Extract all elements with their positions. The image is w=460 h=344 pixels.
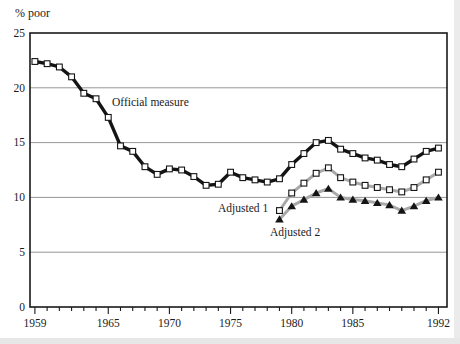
marker-square-official-measure [32,59,38,65]
marker-square-adjusted-1 [277,208,283,214]
x-tick-label: 1959 [23,317,46,329]
marker-square-official-measure [277,176,283,182]
marker-square-official-measure [362,155,368,161]
marker-square-official-measure [313,140,319,146]
marker-square-official-measure [191,174,197,180]
x-tick-label: 1992 [427,317,450,329]
x-tick-label: 1965 [97,317,120,329]
marker-square-official-measure [240,175,246,181]
marker-square-official-measure [252,177,258,183]
y-tick-label: 10 [14,191,26,203]
x-tick-label: 1980 [280,317,303,329]
marker-square-official-measure [228,169,234,175]
scan-edge-bottom [0,338,460,344]
marker-square-official-measure [399,164,405,170]
chart-plot-area: 05101520251959196519701975198019851992 [0,0,460,344]
marker-square-adjusted-1 [399,189,405,195]
marker-square-official-measure [411,156,417,162]
marker-square-official-measure [325,138,331,144]
marker-square-official-measure [203,182,209,188]
marker-square-official-measure [423,148,429,154]
scan-edge-right [454,0,460,344]
marker-square-official-measure [179,167,185,173]
y-tick-label: 25 [14,27,26,39]
marker-square-official-measure [289,162,295,168]
marker-square-adjusted-1 [362,182,368,188]
marker-square-official-measure [436,145,442,151]
marker-square-adjusted-1 [325,165,331,171]
x-tick-label: 1985 [341,317,364,329]
y-tick-label: 5 [19,246,25,258]
marker-square-adjusted-1 [350,179,356,185]
y-tick-label: 0 [19,301,25,313]
marker-square-official-measure [142,164,148,170]
marker-square-official-measure [374,157,380,163]
series-label-adjusted-1: Adjusted 1 [218,202,268,214]
marker-square-adjusted-1 [289,190,295,196]
marker-square-official-measure [93,96,99,102]
marker-square-official-measure [56,64,62,70]
y-tick-label: 20 [14,82,26,94]
marker-square-adjusted-1 [313,170,319,176]
poverty-rate-figure: 05101520251959196519701975198019851992 %… [0,0,460,344]
series-label-adjusted-2: Adjusted 2 [270,226,320,238]
series-label-official-measure: Official measure [112,96,189,108]
marker-square-official-measure [118,143,124,149]
marker-square-official-measure [44,61,50,67]
marker-square-official-measure [69,74,75,80]
marker-square-official-measure [105,114,111,120]
x-tick-label: 1975 [219,317,242,329]
y-axis-unit-label: % poor [15,6,50,21]
plot-frame [30,33,447,307]
marker-square-official-measure [350,151,356,157]
marker-square-official-measure [301,151,307,157]
series-line-official-measure [35,61,439,185]
marker-square-official-measure [215,181,221,187]
marker-square-adjusted-1 [411,185,417,191]
marker-square-official-measure [154,171,160,177]
y-tick-label: 15 [14,136,26,148]
marker-square-adjusted-1 [338,175,344,181]
marker-square-official-measure [264,179,270,185]
marker-square-adjusted-1 [374,185,380,191]
marker-square-official-measure [387,162,393,168]
marker-square-official-measure [130,148,136,154]
marker-square-official-measure [167,166,173,172]
marker-square-adjusted-1 [301,180,307,186]
marker-square-official-measure [81,90,87,96]
x-tick-label: 1970 [158,317,181,329]
marker-square-official-measure [338,146,344,152]
marker-square-adjusted-1 [387,187,393,193]
marker-square-adjusted-1 [423,177,429,183]
marker-square-adjusted-1 [436,169,442,175]
